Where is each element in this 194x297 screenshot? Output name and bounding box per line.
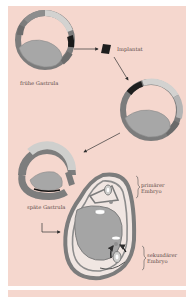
label-secondary-embryo-line2: Embryo <box>147 258 177 264</box>
implant-icon <box>101 44 111 54</box>
twin-embryo-icon <box>65 174 134 278</box>
brace-secondary-icon <box>142 246 146 270</box>
label-primary-embryo-line2: Embryo <box>141 188 165 194</box>
label-primary-embryo: primärer Embryo <box>141 182 165 194</box>
label-late-gastrula: späte Gastrula <box>27 204 65 210</box>
brace-primary-icon <box>136 176 140 198</box>
host-gastrula-icon <box>123 82 180 138</box>
late-gastrula-icon <box>22 145 72 196</box>
label-implant: Implantat <box>117 46 143 52</box>
label-secondary-embryo: sekundärer Embryo <box>147 252 177 264</box>
label-early-gastrula: frühe Gastrula <box>20 80 58 86</box>
early-gastrula-icon <box>18 13 72 67</box>
